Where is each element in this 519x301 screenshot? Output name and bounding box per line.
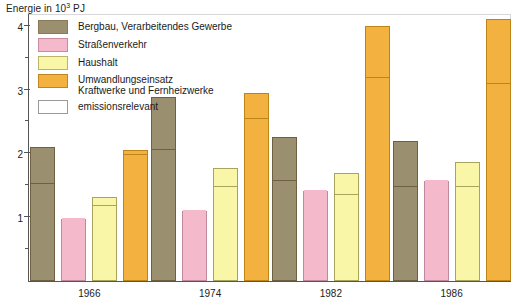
bar-segment-divider [31,183,54,184]
bar-segment-divider [335,194,358,195]
bar [393,141,418,281]
bar [365,26,390,281]
bar-segment-divider [394,186,417,187]
bar-segment-divider [366,77,389,78]
legend-item-bergbau: Bergbau, Verarbeitendes Gewerbe [38,20,232,34]
legend-label-emissionsrelevant: emissionsrelevant [78,100,158,112]
bar-segment-divider [245,118,268,119]
bar-segment-emissionsrelevant [304,190,327,280]
legend-swatch-emissionsrelevant [38,100,68,114]
y-tick-major [24,89,30,90]
bar-segment-emissionsrelevant [366,78,389,280]
legend-label-bergbau: Bergbau, Verarbeitendes Gewerbe [78,20,232,32]
x-axis-label: 1966 [78,288,100,299]
legend-swatch-strassenverkehr [38,38,68,52]
bar [123,150,148,281]
legend-swatch-haushalt [38,56,68,70]
legend-label-haushalt: Haushalt [78,56,117,68]
y-tick-minor [25,120,29,121]
x-axis-label: 1986 [441,288,463,299]
y-tick-minor [25,184,29,185]
bar-segment-emissionsrelevant [456,187,479,280]
bar-segment-divider [456,186,479,187]
x-axis-label: 1982 [320,288,342,299]
bar [424,181,449,281]
y-tick-label: 3 [3,85,23,96]
y-tick-label: 2 [3,149,23,160]
bar-segment-emissionsrelevant [335,195,358,281]
y-tick-major [24,152,30,153]
legend-item-strassenverkehr: Straßenverkehr [38,38,232,52]
bar-segment-emissionsrelevant [425,180,448,280]
bar-segment-emissionsrelevant [31,184,54,280]
y-tick-minor [25,248,29,249]
bar-segment-divider [487,83,510,84]
legend-swatch-umwandlungseinsatz [38,74,68,88]
legend-item-emissionsrelevant: emissionsrelevant [38,100,232,114]
legend-swatch-bergbau [38,20,68,34]
bar [272,137,297,281]
bar-segment-emissionsrelevant [273,181,296,280]
legend-label-umwandlungseinsatz: Umwandlungseinsatz Kraftwerke und Fernhe… [78,74,214,96]
bar-segment-emissionsrelevant [183,210,206,280]
y-axis-title-suffix: PJ [70,3,85,14]
y-tick-major [24,25,30,26]
y-tick-major [24,216,30,217]
bar-segment-divider [124,154,147,155]
bar-segment-divider [214,186,237,187]
bar-segment-emissionsrelevant [124,155,147,280]
bar [303,191,328,281]
legend-item-haushalt: Haushalt [38,56,232,70]
bar [61,219,86,281]
bar-segment-emissionsrelevant [394,187,417,280]
bar-segment-divider [273,180,296,181]
bar [334,173,359,281]
bar-segment-emissionsrelevant [62,218,85,280]
x-axis-label: 1974 [199,288,221,299]
bar-segment-emissionsrelevant [487,84,510,280]
chart-root: Energie in 103 PJ 12341966197419821986 B… [0,0,519,301]
bar [30,147,55,281]
bar [244,93,269,281]
legend-item-umwandlungseinsatz: Umwandlungseinsatz Kraftwerke und Fernhe… [38,74,232,96]
legend: Bergbau, Verarbeitendes Gewerbe Straßenv… [38,20,232,118]
y-axis-title: Energie in 103 PJ [6,2,85,14]
bar [213,168,238,281]
bar [182,211,207,281]
y-tick-minor [25,57,29,58]
bar [151,97,176,281]
y-tick-label: 4 [3,21,23,32]
legend-label-strassenverkehr: Straßenverkehr [78,38,147,50]
bar-segment-emissionsrelevant [245,119,268,280]
bar-segment-emissionsrelevant [93,206,116,280]
bar-segment-emissionsrelevant [214,187,237,280]
bar [486,19,511,281]
bar-segment-divider [93,205,116,206]
bar-segment-emissionsrelevant [152,150,175,280]
bar [455,162,480,281]
y-axis-title-prefix: Energie in 10 [6,3,66,14]
bar [92,197,117,281]
bar-segment-divider [152,149,175,150]
y-tick-label: 1 [3,213,23,224]
